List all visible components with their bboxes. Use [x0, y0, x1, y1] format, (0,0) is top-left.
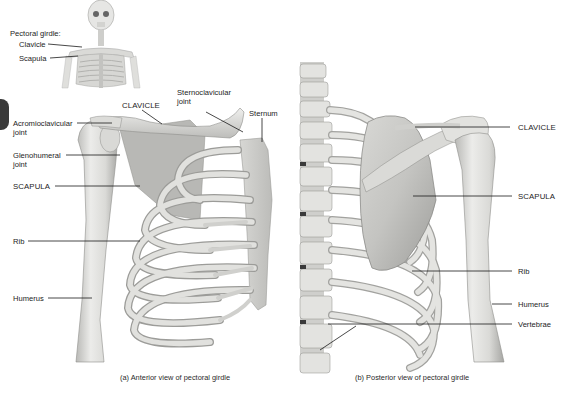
posterior-view: [300, 62, 504, 373]
anterior-label-sternoclavicular-line2: joint: [177, 97, 191, 106]
posterior-label-vertebrae: Vertebrae: [518, 320, 551, 329]
posterior-caption: (b) Posterior view of pectoral girdle: [355, 373, 469, 382]
posterior-label-clavicle: CLAVICLE: [518, 123, 556, 132]
anterior-label-glenohumeral-line1: Glenohumeral: [13, 151, 61, 160]
bone-illustration: [0, 0, 561, 394]
anterior-label-rib: Rib: [13, 237, 24, 246]
chapter-tab: [0, 99, 9, 130]
anterior-view: [76, 108, 272, 362]
inset-label-scapula: Scapula: [19, 54, 46, 63]
anterior-label-sternoclavicular-line1: Sternoclavicular: [177, 88, 231, 97]
anterior-label-scapula: SCAPULA: [13, 182, 50, 191]
inset-skeleton: [62, 0, 140, 88]
anterior-label-acromioclavicular-line1: Acromioclavicular: [13, 119, 73, 128]
inset-title: Pectoral girdle:: [10, 29, 61, 38]
posterior-label-rib: Rib: [518, 267, 529, 276]
posterior-label-scapula: SCAPULA: [518, 192, 555, 201]
anterior-label-clavicle: CLAVICLE: [122, 101, 160, 110]
pectoral-girdle-figure: Pectoral girdle: Clavicle Scapula CLAVIC…: [0, 0, 561, 394]
anterior-label-humerus: Humerus: [13, 294, 44, 303]
anterior-label-glenohumeral-line2: joint: [13, 160, 27, 169]
posterior-label-humerus: Humerus: [518, 300, 549, 309]
anterior-caption: (a) Anterior view of pectoral girdle: [120, 373, 230, 382]
anterior-label-acromioclavicular-line2: joint: [13, 128, 27, 137]
inset-label-clavicle: Clavicle: [19, 40, 46, 49]
anterior-label-sternum: Sternum: [249, 109, 278, 118]
